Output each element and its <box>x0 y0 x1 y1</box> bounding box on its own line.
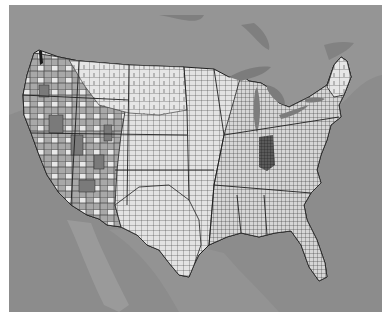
map-frame <box>9 5 382 312</box>
us-county-map <box>9 5 382 312</box>
region-indiana-dark <box>259 135 275 171</box>
